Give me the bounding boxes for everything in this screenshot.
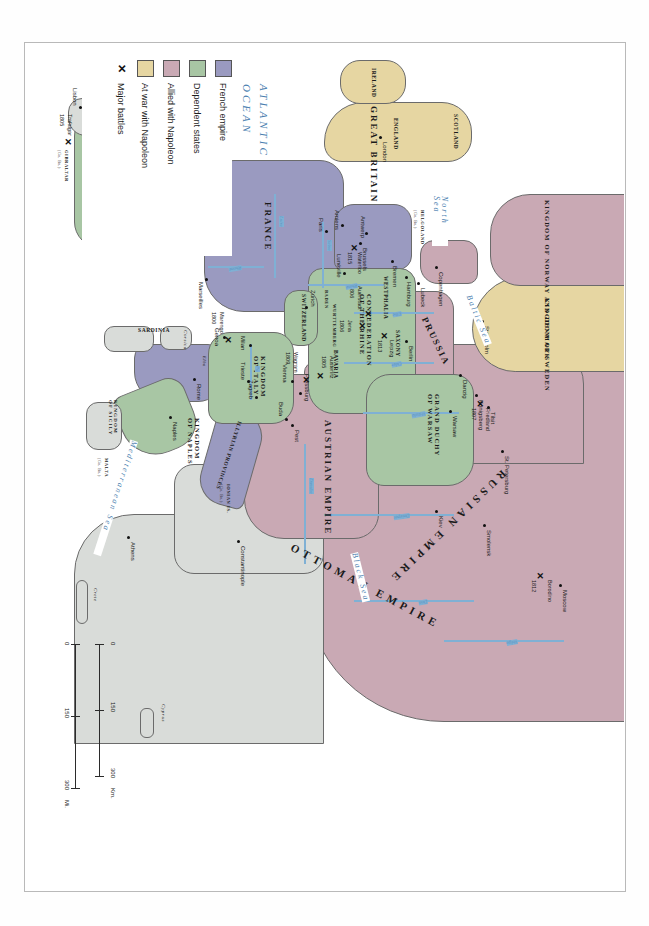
city-dot-copenhagen [435,266,438,269]
battle-year-friedland: 1807 [471,408,477,420]
label-scotland: SCOTLAND [453,114,459,149]
scale-label-km-0: 0 [110,642,116,645]
legend-label-french-empire: French empire [219,83,229,141]
map-legend: French empire Dependent states Allied wi… [82,60,232,256]
label-kingdom-of-italy: KINGDOM OF ITALY [253,356,266,400]
city-label-naples: Naples [172,422,178,441]
label-grand-duchy-of-warsaw: GRAND DUCHY OF WARSAW [427,394,440,464]
city-label-lubeck: Lubeck [420,288,426,307]
legend-swatch-dependent-states [189,60,206,77]
map-plate: RUSSIAN EMPIRE OTTOMAN EMPIRE AUSTRIAN E… [24,42,626,892]
battle-x-auerstadt: ✕ [363,310,372,318]
label-malta: MALTA [104,458,109,477]
city-dot-pressburg [299,392,302,395]
city-dot-zurich [305,306,308,309]
legend-swatch-french-empire [215,60,232,77]
city-dot-moscow [559,584,562,587]
city-dot-smolensk [483,524,486,527]
city-label-berlin: Berlin [408,346,414,361]
legend-item-at-war-with-napoleon[interactable]: At war with Napoleon [137,60,154,168]
city-label-lisbon: Lisbon [72,88,78,106]
label-saxony: SAXONY [395,330,401,357]
battle-label-austerlitz: Austerlitz [329,356,335,379]
river-dnieper [324,514,454,516]
battle-label-marengo: Marengo [219,312,225,334]
label-malta-note: (Gr. Br.) [97,458,101,477]
city-dot-konigsberg [475,394,478,397]
battle-label-friedland: Friedland [485,408,491,431]
battle-year-borodino: 1812 [531,580,537,592]
city-label-antwerp: Antwerp [360,216,366,238]
city-dot-paris [325,230,328,233]
city-dot-kiev [435,510,438,513]
island-cyprus [140,708,154,738]
label-england: ENGLAND [393,118,399,150]
label-helgoland-note: (Gr. Br.) [413,210,417,229]
battle-year-leipzig: 1813 [377,340,383,352]
scale-label-mi-150: 150 [64,708,70,718]
scale-tick-km-300 [95,776,104,777]
city-dot-rome [193,378,196,381]
city-dot-london [379,136,382,139]
city-dot-pest [291,424,294,427]
scale-tick-km-0 [95,644,104,645]
city-label-amiens: Amiens [334,210,340,230]
region-denmark-jutland [420,240,478,284]
city-dot-zagreb [255,396,258,399]
legend-item-major-battles[interactable]: ✕ Major battles [115,60,128,135]
label-corsica: Corsica [183,330,188,350]
river-label-seine: Seine [327,240,332,251]
city-label-danzig: Danzig [462,380,468,399]
legend-label-at-war-with-napoleon: At war with Napoleon [141,83,151,168]
scale-label-km-300: 300 [110,768,116,778]
city-dot-st-petersburg [501,450,504,453]
scale-label-mi-0: 0 [64,642,70,645]
water-label-atlantic-ocean: ATLANTIC OCEAN [239,84,272,180]
legend-x-icon-major-battles: ✕ [115,60,128,77]
legend-item-allied-with-napoleon[interactable]: Allied with Napoleon [163,60,180,165]
river-loire [274,194,276,278]
battle-x-waterloo: ✕ [349,244,358,252]
city-dot-brussels [359,242,362,245]
city-dot-naples [169,416,172,419]
legend-item-french-empire[interactable]: French empire [215,60,232,141]
city-dot-hamburg [405,276,408,279]
label-westphalia: WESTPHALIA [383,276,389,319]
river-oder [344,362,434,364]
water-label-north-sea: North Sea [432,196,448,246]
river-don [354,600,474,602]
city-label-pest: Pest [294,430,300,442]
label-ireland: IRELAND [371,68,377,98]
city-dot-lubeck [417,282,420,285]
city-label-trieste: Trieste [240,362,246,380]
city-label-copenhagen: Copenhagen [438,272,444,306]
battle-x-borodino: ✕ [535,572,544,580]
battle-year-austerlitz: 1805 [321,356,327,368]
city-label-smolensk: Smolensk [486,530,492,556]
label-ionian-islands: IONIAN IS. [226,484,231,513]
battle-label-auerstadt: Auerstadt [357,286,363,310]
map-page: RUSSIAN EMPIRE OTTOMAN EMPIRE AUSTRIAN E… [0,0,649,926]
city-label-moscow: Moscow [562,590,568,612]
battle-label-leipzig: Leipzig [389,340,395,357]
legend-item-dependent-states[interactable]: Dependent states [189,60,206,154]
city-label-luneville: Lunéville [336,254,342,278]
scale-bar: 0 150 300 Km. 0 150 300 Mi. [58,644,116,804]
battle-x-austerlitz: ✕ [315,372,324,380]
river-label-danube: Danube [309,478,314,494]
label-baden: BADEN [324,290,329,309]
scale-unit-mi: Mi. [64,800,70,808]
battle-label-jena: Jena [347,320,353,332]
battle-year-jena: 1806 [339,320,345,332]
city-dot-milan [249,344,252,347]
label-gibraltar-note: (Gr. Br.) [57,150,61,169]
river-label-po: Po [255,366,260,372]
city-label-st-petersburg: St. Petersburg [504,456,510,494]
label-norway-denmark: KINGDOM OF NORWAY AND DENMARK [544,200,551,360]
label-wurttemberg: WURTTEMBERG [332,304,337,347]
battle-x-jena: ✕ [357,322,366,330]
city-dot-vienna [291,380,294,383]
map-rotation-wrapper: RUSSIAN EMPIRE OTTOMAN EMPIRE AUSTRIAN E… [26,44,624,890]
city-dot-buda [285,418,288,421]
legend-swatch-at-war-with-napoleon [137,60,154,77]
